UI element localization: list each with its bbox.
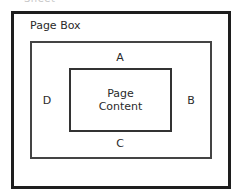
page-box-label: Page Box (30, 19, 81, 32)
margin-label-left: D (40, 94, 54, 107)
sheet-label: Sheet (24, 0, 55, 4)
margin-label-bottom: C (113, 137, 127, 150)
page-content-label-line2: Content (99, 100, 143, 113)
page-content-box: Page Content (69, 68, 172, 132)
margin-label-right: B (184, 94, 198, 107)
page-content-label: Page Content (99, 87, 143, 113)
margin-label-top: A (113, 51, 127, 64)
page-content-label-line1: Page (99, 87, 143, 100)
